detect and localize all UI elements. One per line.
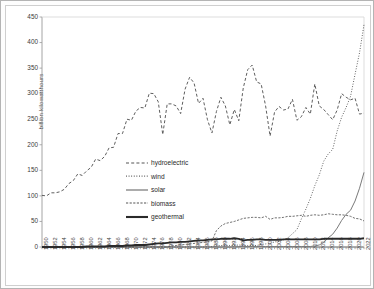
legend-label: solar (151, 186, 165, 193)
legend-swatch-wind-icon (126, 172, 148, 180)
series-line-wind (42, 25, 364, 247)
series-line-hydroelectric (42, 65, 364, 196)
legend-label: hydroelectric (151, 159, 188, 166)
legend-label: geothermal (151, 213, 184, 220)
legend-item-hydroelectric: hydroelectric (126, 158, 188, 167)
legend-swatch-geothermal-icon (126, 213, 148, 221)
legend-item-geothermal: geothermal (126, 212, 184, 221)
chart-inner-frame: billion kilowatthours 050100150200250300… (5, 5, 371, 286)
legend-item-wind: wind (126, 172, 165, 181)
chart-plot-svg (6, 6, 372, 287)
series-line-solar (42, 172, 364, 247)
legend-item-solar: solar (126, 185, 165, 194)
chart-axes (42, 17, 364, 247)
legend-item-biomass: biomass (126, 199, 176, 208)
legend-swatch-hydroelectric-icon (126, 159, 148, 167)
legend-label: wind (151, 173, 165, 180)
series-line-biomass (42, 214, 364, 247)
legend-label: biomass (151, 200, 176, 207)
chart-figure: billion kilowatthours 050100150200250300… (0, 0, 374, 289)
legend-swatch-solar-icon (126, 186, 148, 194)
legend-swatch-biomass-icon (126, 199, 148, 207)
